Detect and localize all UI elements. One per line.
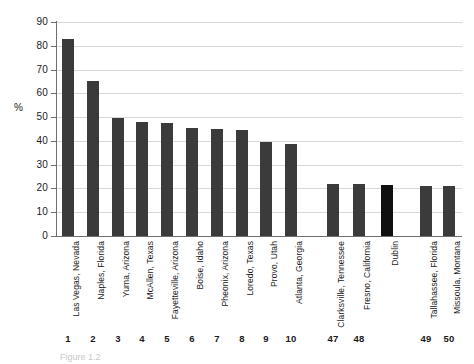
rank-label: 48 [349, 334, 369, 344]
category-label: Naples, Florida [97, 241, 106, 300]
bar [211, 129, 223, 236]
y-axis-tick-label-wrap: 30 [0, 160, 48, 170]
bar [353, 184, 365, 236]
y-axis-tick-label: 20 [24, 183, 48, 193]
bar [443, 186, 455, 236]
bar [87, 81, 99, 236]
category-label: Clarksville, Tennessee [337, 241, 346, 328]
category-label: Las Vegas, Nevada [72, 241, 81, 316]
bar [420, 186, 432, 236]
rank-label: 47 [323, 334, 343, 344]
category-label: Dublin [391, 241, 400, 266]
category-label: Loredo, Texas [246, 241, 255, 296]
category-label: McAllen, Texas [146, 241, 155, 299]
rank-label: 6 [182, 334, 202, 344]
bar [260, 142, 272, 236]
y-axis-tick-label: 80 [24, 41, 48, 51]
bar [327, 184, 339, 236]
rank-label: 5 [157, 334, 177, 344]
y-axis-tick-label: 90 [24, 17, 48, 27]
y-axis-tick-label: 10 [24, 207, 48, 217]
y-axis-tick-label-wrap: 70 [0, 65, 48, 75]
bar [285, 144, 297, 236]
bar [136, 122, 148, 236]
bar [236, 130, 248, 236]
bar-chart: % 0102030405060708090 Las Vegas, NevadaN… [0, 0, 474, 364]
bar [62, 39, 74, 236]
rank-label: 1 [58, 334, 78, 344]
y-axis-tick-label-wrap: 90 [0, 17, 48, 27]
rank-label: 49 [416, 334, 436, 344]
y-axis-tick-label-wrap: 80 [0, 41, 48, 51]
bars-group [57, 22, 462, 236]
y-axis-tick-label: 40 [24, 136, 48, 146]
rank-label: 4 [132, 334, 152, 344]
y-axis-tick-label-wrap: 10 [0, 207, 48, 217]
y-axis-tick-label-wrap: 60 [0, 88, 48, 98]
y-axis-tick-label-wrap: 0 [0, 231, 48, 241]
y-axis-tick-label: 60 [24, 88, 48, 98]
rank-label: 2 [83, 334, 103, 344]
y-axis-tick-label-wrap: 40 [0, 136, 48, 146]
rank-label: 3 [108, 334, 128, 344]
category-label: Atlanta, Georgia [295, 241, 304, 304]
bar [186, 128, 198, 236]
category-label: Missoula, Montana [453, 241, 462, 314]
y-axis-tick-label: 70 [24, 65, 48, 75]
x-axis-line [56, 236, 462, 237]
figure-caption: Figure 1.2 [60, 352, 101, 362]
category-label: Pheonix, Arizona [221, 241, 230, 306]
bar [112, 118, 124, 236]
category-label: Yuma, Arizona [122, 241, 131, 297]
category-label: Fresno, California [363, 241, 372, 310]
y-axis-tick-label: 50 [24, 112, 48, 122]
category-label: Provo, Utah [270, 241, 279, 287]
rank-label: 50 [439, 334, 459, 344]
category-label: Tallahassee, Florida [430, 241, 439, 319]
category-label: Fayetteville, Arizona [171, 241, 180, 319]
bar [161, 123, 173, 236]
y-axis-tick-label-wrap: 20 [0, 183, 48, 193]
y-axis-tick-label: 30 [24, 160, 48, 170]
bar [381, 185, 393, 236]
category-label: Boise, Idaho [196, 241, 205, 289]
rank-label: 10 [281, 334, 301, 344]
rank-label: 9 [256, 334, 276, 344]
rank-label: 7 [207, 334, 227, 344]
y-axis-tick-label: 0 [24, 231, 48, 241]
y-axis-tick-label-wrap: 50 [0, 112, 48, 122]
rank-label: 8 [232, 334, 252, 344]
